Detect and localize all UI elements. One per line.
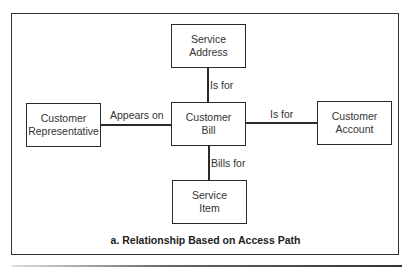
line-address-bill bbox=[207, 67, 209, 102]
entity-label: Customer bbox=[41, 112, 87, 125]
entity-label: Customer bbox=[186, 111, 232, 124]
entity-label: Item bbox=[199, 202, 219, 215]
entity-label: Service bbox=[191, 33, 226, 46]
entity-service-item: Service Item bbox=[172, 180, 247, 224]
line-rep-bill bbox=[100, 124, 171, 126]
diagram-caption: a. Relationship Based on Access Path bbox=[0, 234, 411, 246]
entity-service-address: Service Address bbox=[171, 24, 246, 68]
relationship-label-item: Bills for bbox=[211, 157, 245, 169]
entity-label: Customer bbox=[332, 110, 378, 123]
entity-label: Address bbox=[189, 46, 228, 59]
entity-customer-account: Customer Account bbox=[317, 101, 392, 145]
entity-label: Bill bbox=[201, 124, 215, 137]
relationship-label-address: Is for bbox=[210, 79, 233, 91]
entity-label: Service bbox=[192, 189, 227, 202]
entity-label: Representative bbox=[28, 125, 99, 138]
line-bill-account bbox=[245, 122, 317, 124]
entity-customer-representative: Customer Representative bbox=[26, 103, 101, 147]
line-bill-item bbox=[208, 145, 210, 180]
entity-customer-bill: Customer Bill bbox=[171, 102, 246, 146]
relationship-label-rep: Appears on bbox=[110, 109, 164, 121]
entity-label: Account bbox=[336, 123, 374, 136]
relationship-label-account: Is for bbox=[270, 108, 293, 120]
